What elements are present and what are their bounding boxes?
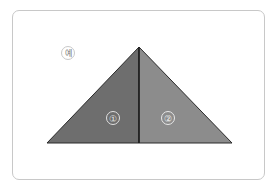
triangle-part-1: [47, 47, 139, 143]
svg-text:②: ②: [164, 114, 172, 124]
triangle-part-2: [139, 47, 232, 143]
triangle-diagram: ① ②: [0, 0, 268, 183]
svg-text:①: ①: [109, 114, 117, 124]
